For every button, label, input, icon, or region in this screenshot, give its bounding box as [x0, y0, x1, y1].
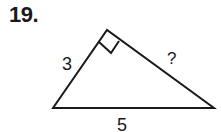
right-triangle: [53, 30, 214, 108]
right-angle-marker: [99, 41, 119, 53]
hypotenuse-label: 5: [117, 115, 127, 132]
triangle-diagram: 3 ? 5: [0, 0, 221, 132]
left-leg-label: 3: [62, 54, 72, 74]
right-leg-label: ?: [167, 49, 176, 68]
